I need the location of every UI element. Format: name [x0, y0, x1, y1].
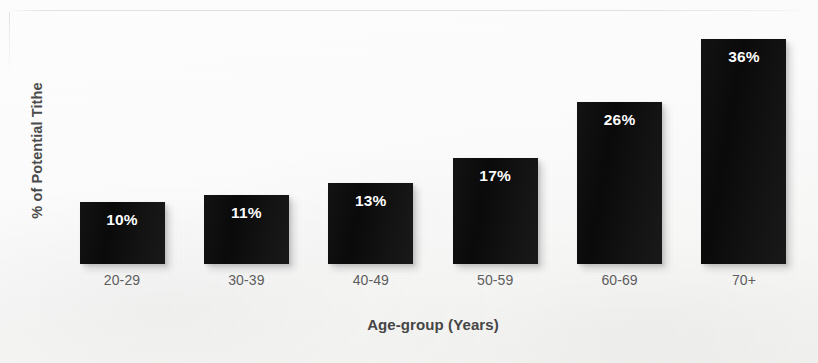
x-axis-title: Age-group (Years): [72, 316, 794, 333]
bar-value-label: 10%: [106, 211, 138, 229]
x-axis-tick-label: 70+: [694, 272, 794, 296]
x-axis-tick-label: 20-29: [72, 272, 172, 296]
bar[interactable]: 13%: [328, 183, 413, 264]
y-axis-title: % of Potential Tithe: [24, 48, 50, 253]
chart-frame-top-border: [8, 10, 808, 11]
bar[interactable]: 10%: [80, 202, 165, 265]
bar[interactable]: 26%: [577, 102, 662, 265]
bar-value-label: 17%: [479, 167, 511, 185]
bar-slot: 26%: [570, 14, 670, 264]
bar[interactable]: 17%: [453, 158, 538, 264]
bar-value-label: 13%: [355, 192, 387, 210]
bar-value-label: 26%: [604, 111, 636, 129]
bar-slot: 36%: [694, 14, 794, 264]
plot-area: 10%11%13%17%26%36%: [72, 14, 794, 264]
chart-frame-left-border: [9, 12, 10, 72]
bar-value-label: 36%: [728, 48, 760, 66]
bar-slot: 17%: [445, 14, 545, 264]
bar-value-label: 11%: [231, 204, 262, 222]
bars-container: 10%11%13%17%26%36%: [72, 14, 794, 264]
x-axis-tick-label: 50-59: [445, 272, 545, 296]
bar-chart-figure: % of Potential Tithe 10%11%13%17%26%36% …: [0, 0, 818, 363]
x-axis-tick-labels: 20-2930-3940-4950-5960-6970+: [72, 272, 794, 296]
bar[interactable]: 11%: [204, 195, 289, 264]
x-axis-tick-label: 40-49: [321, 272, 421, 296]
x-axis-tick-label: 60-69: [570, 272, 670, 296]
bar[interactable]: 36%: [701, 39, 786, 264]
bar-slot: 10%: [72, 14, 172, 264]
bar-slot: 13%: [321, 14, 421, 264]
bar-slot: 11%: [196, 14, 296, 264]
x-axis-tick-label: 30-39: [196, 272, 296, 296]
